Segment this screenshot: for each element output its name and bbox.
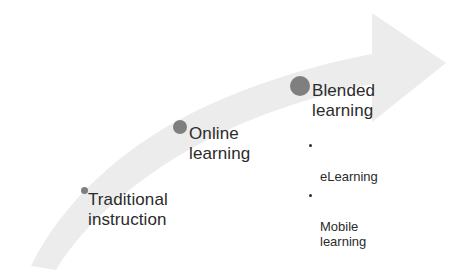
stage-blended-sub-items: eLearning Mobile learning: [308, 138, 378, 253]
stage-label-online: Online learning: [189, 124, 250, 164]
bullet-icon: [309, 144, 312, 147]
list-item-label: eLearning: [320, 169, 378, 184]
stage-label-traditional: Traditional instruction: [88, 190, 168, 230]
learning-evolution-diagram: Traditional instruction Online learning …: [0, 0, 458, 271]
stage-dot-traditional: [81, 187, 88, 194]
stage-label-blended: Blended learning: [312, 81, 375, 121]
list-item: Mobile learning: [308, 188, 378, 250]
list-item: eLearning: [308, 138, 378, 185]
list-item-label: Mobile learning: [320, 219, 366, 250]
stage-dot-online: [173, 120, 187, 134]
bullet-icon: [309, 194, 312, 197]
stage-dot-blended: [290, 76, 310, 96]
